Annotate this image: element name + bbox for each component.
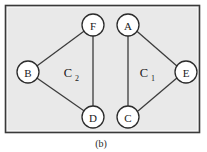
node-d[interactable]: D (82, 106, 104, 128)
node-e-label: E (183, 67, 190, 79)
graph-diagram: C 2 C 1 F A B E D C (0, 0, 207, 152)
node-e[interactable]: E (175, 61, 197, 83)
node-c[interactable]: C (117, 106, 139, 128)
cycle-label-c1-subscript: 1 (151, 74, 155, 83)
node-d-label: D (89, 112, 97, 124)
node-a[interactable]: A (117, 14, 139, 36)
figure-panel-b: C 2 C 1 F A B E D C (0, 0, 207, 152)
cycle-label-c2-subscript: 2 (75, 74, 79, 83)
node-b[interactable]: B (17, 61, 39, 83)
node-c-label: C (124, 112, 131, 124)
node-f-label: F (90, 20, 96, 32)
cycle-label-c2-base: C (64, 66, 72, 80)
node-b-label: B (24, 67, 31, 79)
figure-caption: (b) (95, 138, 107, 150)
node-a-label: A (124, 20, 132, 32)
node-f[interactable]: F (82, 14, 104, 36)
cycle-label-c1-base: C (140, 66, 148, 80)
